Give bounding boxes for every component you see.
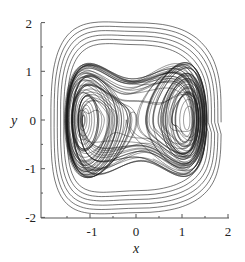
y-tick-1: 1 xyxy=(26,64,33,79)
x-tick-neg1: -1 xyxy=(87,224,98,239)
x-tick-0: 0 xyxy=(133,224,140,239)
x-axis-label: x xyxy=(132,241,140,256)
trajectory-curves xyxy=(51,22,221,214)
y-tick-2: 2 xyxy=(26,16,33,31)
y-axis-label: y xyxy=(9,113,18,128)
y-tick-0: 0 xyxy=(30,113,37,128)
phase-plot: 2 1 0 -1 -2 -1 0 1 2 x y xyxy=(0,0,245,262)
x-tick-2: 2 xyxy=(225,224,232,239)
y-tick-neg2: -2 xyxy=(25,210,36,225)
x-tick-1: 1 xyxy=(179,224,186,239)
y-tick-neg1: -1 xyxy=(25,161,36,176)
